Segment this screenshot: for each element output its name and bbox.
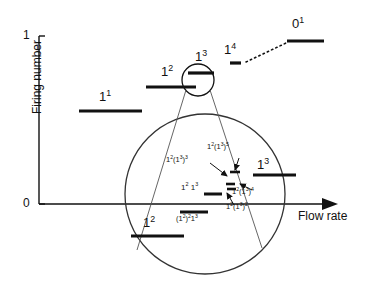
label-plateau-1-1: 11 — [99, 89, 111, 104]
axis-group — [39, 36, 322, 204]
arrow-12-13-5 — [235, 158, 239, 170]
arrow-12-13-3 — [210, 163, 227, 176]
label-plateau-0-1: 01 — [292, 16, 304, 31]
label-plateau-1-3-upper: 13 — [195, 49, 207, 64]
label-plateau-1-4: 14 — [224, 42, 236, 57]
y-tick-label-0: 0 — [23, 196, 30, 210]
label-inset-12-13-2: 12(13)2 — [226, 202, 248, 211]
y-axis-title: Firing number — [30, 22, 44, 132]
label-plateau-1-2-lower: 12 — [143, 215, 155, 230]
label-plateau-1-2-upper: 12 — [161, 64, 173, 79]
dotted-connector — [246, 43, 286, 62]
plateau-segments — [79, 41, 324, 236]
magnifier-lens-small — [182, 64, 214, 96]
x-axis-title: Flow rate — [298, 209, 347, 223]
label-inset-12-13-4: 12(13)4 — [232, 187, 254, 196]
figure-canvas: 1 0 Firing number Flow rate 11 12 13 14 … — [0, 0, 373, 299]
figure-vector-layer — [0, 0, 373, 299]
label-inset-12-2-13: (12)213 — [176, 214, 198, 223]
label-inset-12-13-3: 12(13)3 — [166, 155, 188, 164]
label-inset-1-3: 13 — [257, 157, 269, 172]
label-inset-12-13: 12 13 — [181, 183, 198, 192]
y-tick-label-1: 1 — [23, 28, 30, 42]
label-inset-12-13-5: 12(13)5 — [207, 142, 229, 151]
